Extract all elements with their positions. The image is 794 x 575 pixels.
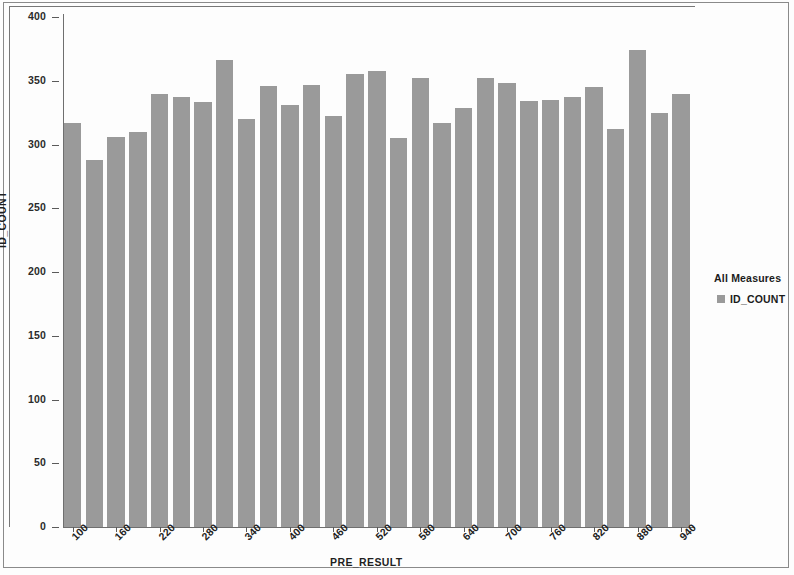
bar — [325, 116, 342, 527]
bar — [564, 97, 581, 527]
y-axis-tick-label: 100 — [14, 393, 46, 405]
y-axis-tick-label: 150 — [14, 329, 46, 341]
legend-title: All Measures — [714, 272, 790, 284]
y-axis-tick-mark — [52, 17, 59, 18]
bar-series — [64, 14, 694, 527]
bar — [194, 102, 211, 527]
bar — [368, 71, 385, 527]
bar — [629, 50, 646, 527]
bar — [390, 138, 407, 527]
bar — [64, 123, 81, 527]
chart-page: 050100150200250300350400 ID_COUNT 100160… — [0, 0, 794, 575]
x-axis-title: PRE_RESULT — [330, 556, 403, 568]
bar — [151, 94, 168, 528]
bar — [433, 123, 450, 527]
bar — [281, 105, 298, 527]
legend-swatch-icon — [717, 295, 725, 303]
y-axis-tick-label: 250 — [14, 201, 46, 213]
legend-item[interactable]: ID_COUNT — [717, 293, 790, 305]
bar — [455, 108, 472, 527]
bar — [607, 129, 624, 527]
bar — [651, 113, 668, 527]
bar — [346, 74, 363, 527]
bar — [585, 87, 602, 527]
bar — [260, 86, 277, 527]
y-axis-title: ID_COUNT — [0, 191, 8, 248]
y-axis-tick-label: 300 — [14, 138, 46, 150]
bar — [542, 100, 559, 527]
y-axis-tick-mark — [52, 272, 59, 273]
bar — [672, 94, 689, 528]
y-axis-tick-mark — [52, 81, 59, 82]
bar — [412, 78, 429, 527]
y-axis-tick-label: 50 — [14, 456, 46, 468]
bar — [107, 137, 124, 527]
y-axis-tick-mark — [52, 336, 59, 337]
legend-item-label: ID_COUNT — [730, 293, 785, 305]
legend-items: ID_COUNT — [714, 293, 790, 305]
bar — [173, 97, 190, 527]
bar — [216, 60, 233, 527]
y-axis-tick-label: 350 — [14, 74, 46, 86]
y-axis-tick-label: 400 — [14, 10, 46, 22]
bar — [129, 132, 146, 527]
bar — [498, 83, 515, 527]
y-axis-tick-mark — [52, 527, 59, 528]
y-axis-tick-label: 0 — [14, 520, 46, 532]
y-axis-tick-mark — [52, 400, 59, 401]
bar — [520, 101, 537, 527]
legend: All Measures ID_COUNT — [714, 272, 790, 305]
bar — [303, 85, 320, 527]
y-axis-tick-mark — [52, 208, 59, 209]
bar — [238, 119, 255, 527]
bar — [477, 78, 494, 527]
bar — [86, 160, 103, 527]
y-axis-tick-mark — [52, 463, 59, 464]
y-axis-tick-label: 200 — [14, 265, 46, 277]
y-axis-tick-mark — [52, 145, 59, 146]
